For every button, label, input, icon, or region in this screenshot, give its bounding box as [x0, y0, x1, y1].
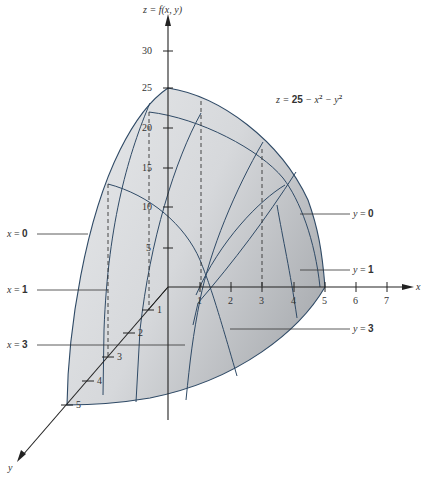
x-tick-label: 2	[228, 295, 233, 306]
y-tick-label: 1	[157, 304, 162, 315]
z-tick-label: 10	[142, 201, 152, 212]
x-tick-label: 7	[384, 295, 389, 306]
eq-y: − y	[322, 94, 338, 105]
equation-label: z = 25 − x2 − y2	[276, 93, 342, 105]
x-tick-label: 1	[197, 295, 202, 306]
label-var: y	[353, 264, 357, 275]
y-axis-label: y	[8, 462, 12, 473]
eq-const: 25	[292, 94, 303, 105]
label-val: 0	[368, 208, 374, 219]
label-val: 1	[368, 264, 374, 275]
z-tick-label: 30	[142, 45, 152, 56]
z-tick-label: 20	[142, 122, 152, 133]
eq-x: − x	[303, 94, 319, 105]
y-tick-label: 5	[76, 399, 81, 410]
label-val: 3	[368, 323, 374, 334]
x-tick-label: 4	[291, 295, 296, 306]
x-axis-label: x	[416, 281, 420, 292]
y-tick-label: 4	[97, 375, 102, 386]
label-var: x	[7, 284, 11, 295]
label-var: x	[7, 339, 11, 350]
paraboloid-diagram	[0, 0, 428, 479]
y-axis-arrow-icon	[17, 450, 26, 462]
x-tick-label: 3	[259, 295, 264, 306]
eq-sq2: 2	[339, 93, 343, 101]
label-x-1: x = 1	[7, 284, 28, 295]
z-tick-label: 5	[146, 242, 151, 253]
label-y-3: y = 3	[353, 323, 374, 334]
x-tick-label: 6	[353, 295, 358, 306]
x-tick-label: 5	[322, 295, 327, 306]
label-val: 1	[22, 284, 28, 295]
x-axis-arrow-icon	[402, 284, 414, 290]
z-axis-arrow-icon	[165, 14, 171, 26]
label-var: x	[7, 228, 11, 239]
label-val: 0	[22, 228, 28, 239]
label-y-0: y = 0	[353, 208, 374, 219]
label-var: y	[353, 208, 357, 219]
z-tick-label: 25	[142, 82, 152, 93]
label-x-0: x = 0	[7, 228, 28, 239]
label-x-3: x = 3	[7, 339, 28, 350]
label-var: y	[353, 323, 357, 334]
z-axis-label: z = f(x, y)	[143, 4, 182, 15]
y-tick-label: 3	[117, 351, 122, 362]
label-y-1: y = 1	[353, 264, 374, 275]
label-val: 3	[22, 339, 28, 350]
eq-lhs: z =	[276, 94, 292, 105]
y-tick-label: 2	[138, 327, 143, 338]
z-tick-label: 15	[142, 162, 152, 173]
